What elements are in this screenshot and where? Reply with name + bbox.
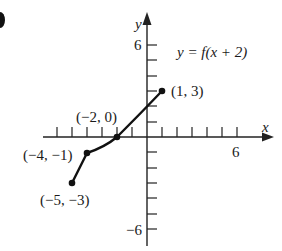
- point-label-neg5-neg3: (−5, −3): [40, 192, 89, 209]
- figure-marker: [0, 12, 5, 28]
- y-axis-label: y: [133, 16, 142, 32]
- equation-label: y = f(x + 2): [175, 44, 247, 61]
- y-axis-arrow-icon: [143, 12, 152, 25]
- y-tick-label-neg6: −6: [126, 222, 142, 238]
- x-axis: x 6: [43, 119, 274, 160]
- x-axis-label: x: [261, 119, 269, 135]
- point-1-3: [159, 88, 166, 95]
- x-tick-label-6: 6: [232, 144, 240, 160]
- point-label-neg4-neg1: (−4, −1): [23, 147, 72, 164]
- y-axis: y 6 −6: [126, 12, 157, 246]
- point-neg5-neg3: [69, 180, 76, 187]
- point-neg2-0: [114, 134, 121, 141]
- point-label-neg2-0: (−2, 0): [76, 109, 117, 126]
- point-neg4-neg1: [84, 150, 91, 157]
- function-graph: x 6 y 6 −6 y = f(x + 2): [0, 0, 282, 251]
- point-label-1-3: (1, 3): [171, 83, 204, 100]
- y-tick-label-6: 6: [134, 37, 142, 53]
